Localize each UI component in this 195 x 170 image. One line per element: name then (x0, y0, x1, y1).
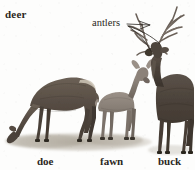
deer-illustration-figure: deer antlers doe fawn buck (0, 0, 195, 170)
specimen-fawn (95, 59, 153, 140)
specimen-label-fawn: fawn (100, 156, 123, 167)
callout-label-antlers: antlers (92, 18, 120, 29)
specimen-label-doe: doe (37, 156, 54, 167)
specimen-label-buck: buck (158, 156, 181, 167)
page-title: deer (5, 9, 27, 20)
